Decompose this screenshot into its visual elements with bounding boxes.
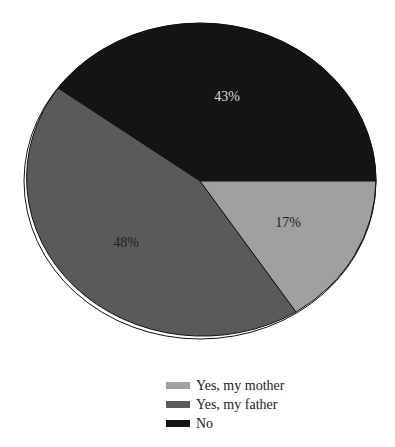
legend-label: No <box>196 414 213 433</box>
legend-swatch <box>166 420 190 427</box>
slice-label-yes-mother: 17% <box>275 215 301 230</box>
legend-label: Yes, my father <box>196 395 277 414</box>
legend-item-no: No <box>166 414 284 433</box>
pie-slices <box>24 23 376 339</box>
chart-legend: Yes, my mother Yes, my father No <box>166 376 284 433</box>
legend-item-yes-father: Yes, my father <box>166 395 284 414</box>
legend-swatch <box>166 382 190 389</box>
legend-item-yes-mother: Yes, my mother <box>166 376 284 395</box>
slice-label-yes-father: 48% <box>113 235 139 250</box>
slice-label-no: 43% <box>214 89 240 104</box>
legend-label: Yes, my mother <box>196 376 284 395</box>
legend-swatch <box>166 401 190 408</box>
